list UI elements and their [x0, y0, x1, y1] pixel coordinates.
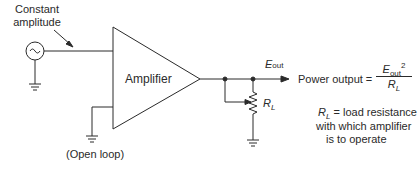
r-l-label: RL [263, 97, 275, 111]
open-loop-label: (Open loop) [66, 148, 124, 161]
power-output-lhs: Power output = [298, 73, 372, 86]
resistor-zigzag [249, 92, 257, 114]
output-arrowhead-icon [281, 76, 289, 82]
fraction-numerator: Eout2 [376, 63, 412, 77]
amplifier-label: Amplifier [125, 73, 172, 86]
sine-glyph [30, 49, 40, 53]
wiper-wire [225, 79, 246, 102]
amp-ground-wire [92, 107, 113, 136]
ground-icon [86, 136, 98, 142]
e-out-label: Eout [265, 58, 283, 72]
definition-block: RL = load resistance with which amplifie… [318, 106, 417, 146]
input-note: Constant amplitude [6, 3, 68, 29]
definition-line1: RL = load resistance [318, 106, 417, 120]
power-fraction: Eout2 RL [376, 63, 412, 90]
ground-icon [29, 84, 41, 90]
fraction-denominator: RL [376, 77, 412, 90]
ground-icon [247, 140, 259, 146]
